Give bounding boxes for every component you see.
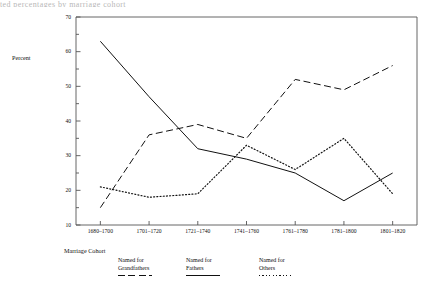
legend-swatch-dotted [259,275,293,276]
y-tick-label: 70 [55,14,71,20]
cut-off-title: ted percentages by marriage cohort [0,0,424,7]
legend-item-dotted: Named forOthers [259,257,293,276]
legend-item-label-line2: Grandfathers [118,265,152,273]
y-tick-label: 30 [55,152,71,158]
legend-swatch-solid [186,275,220,279]
legend-item-label-line2: Others [259,265,293,273]
figure-chart: ted percentages by marriage cohort Perce… [0,0,424,289]
legend-item-label-line2: Fathers [186,265,220,273]
legend-swatch-dashed [118,275,152,276]
y-tick-label: 60 [55,48,71,54]
plot-area [0,0,424,289]
legend-item-label-line1: Named for [118,257,152,265]
y-axis-label: Percent [12,54,31,61]
y-tick-label: 20 [55,187,71,193]
x-axis-label: Marriage Cohort [64,247,105,254]
x-tick-label: 1701–1720 [125,228,173,234]
legend-item-label-line1: Named for [259,257,293,265]
x-tick-label: 1761–1780 [271,228,319,234]
x-tick-label: 1781–1800 [320,228,368,234]
legend-item-solid: Named forFathers [186,257,220,279]
legend-item-dashed: Named forGrandfathers [118,257,152,276]
x-tick-label: 1801–1820 [369,228,417,234]
x-tick-label: 1680–1700 [76,228,124,234]
x-tick-label: 1721–1740 [174,228,222,234]
y-tick-label: 50 [55,83,71,89]
y-tick-label: 10 [55,222,71,228]
x-tick-label: 1741–1760 [223,228,271,234]
legend-item-label-line1: Named for [186,257,220,265]
y-tick-label: 40 [55,118,71,124]
